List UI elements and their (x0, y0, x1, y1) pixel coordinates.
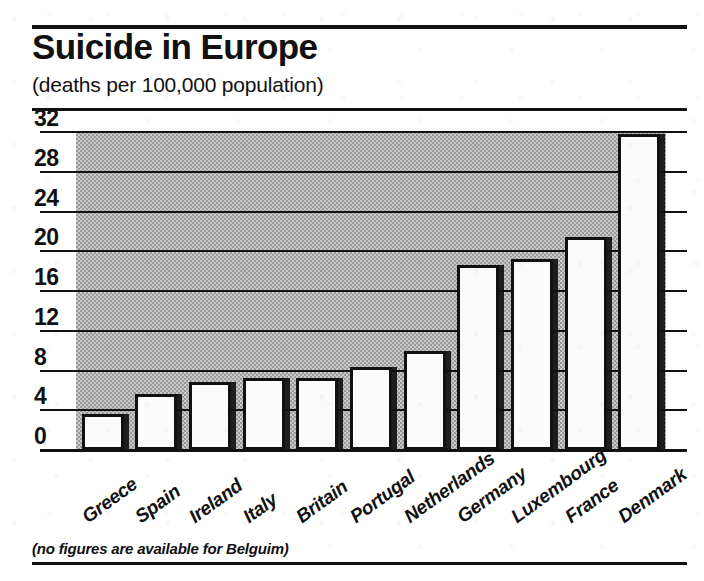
x-axis-label-britain: Britain (292, 476, 352, 528)
chart-figure: Suicide in Europe (deaths per 100,000 po… (0, 0, 704, 581)
x-axis-label-ireland: Ireland (185, 475, 247, 528)
x-axis-labels-group: GreeceSpainIrelandItalyBritainPortugalNe… (0, 0, 704, 581)
footer-rule (32, 562, 687, 565)
x-axis-label-denmark: Denmark (614, 463, 691, 527)
x-axis-label-greece: Greece (78, 473, 142, 528)
chart-footnote: (no figures are available for Belguim) (32, 540, 289, 557)
x-axis-label-italy: Italy (239, 489, 281, 528)
